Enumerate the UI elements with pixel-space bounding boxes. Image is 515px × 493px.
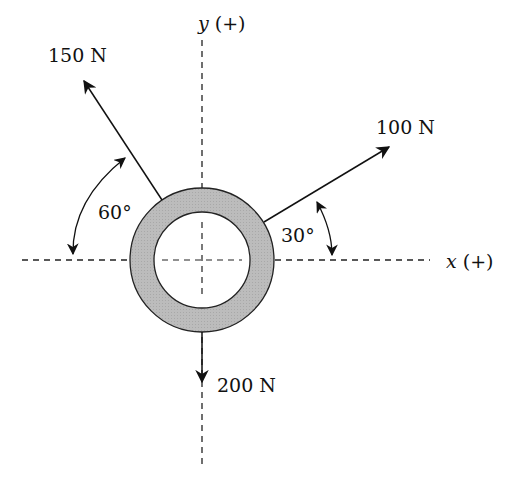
angle-label-60: 60° xyxy=(98,201,132,223)
angle-arc-30 xyxy=(317,202,332,255)
angle-label-30: 30° xyxy=(281,224,315,246)
force-arrow-100n xyxy=(264,147,389,222)
force-label-200n: 200 N xyxy=(217,374,276,396)
ring-body xyxy=(130,188,274,332)
y-axis-var: y xyxy=(198,12,209,34)
x-axis-sign: (+) xyxy=(463,250,494,272)
force-label-100n: 100 N xyxy=(376,116,435,138)
y-axis-label: y (+) xyxy=(198,12,246,34)
y-axis-sign: (+) xyxy=(215,12,246,34)
force-diagram xyxy=(0,0,515,493)
x-axis-label: x (+) xyxy=(446,250,494,272)
force-arrow-150n xyxy=(84,81,162,200)
force-label-150n: 150 N xyxy=(48,44,107,66)
x-axis-var: x xyxy=(446,250,457,272)
